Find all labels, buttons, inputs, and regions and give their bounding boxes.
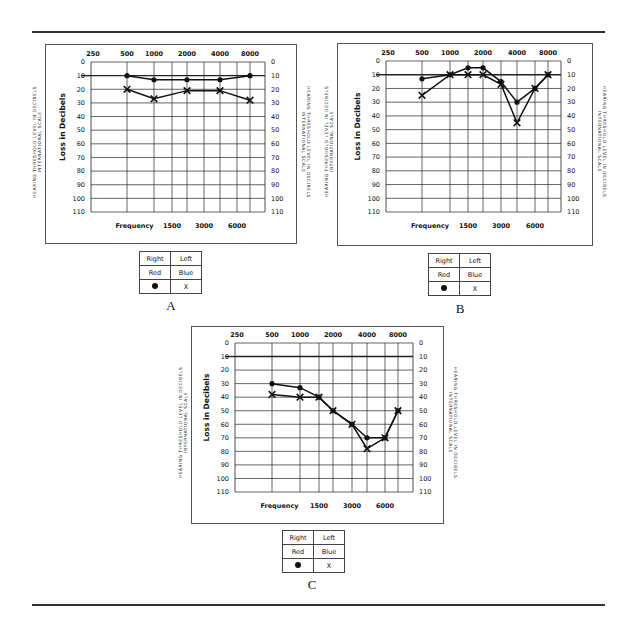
db-tick-right: 100 (419, 475, 431, 483)
db-tick-left: 100 (368, 195, 380, 203)
right-ear-dot-marker (419, 76, 424, 81)
db-tick-right: 110 (419, 488, 431, 496)
db-tick-right: 70 (419, 434, 427, 442)
db-tick-left: 60 (372, 140, 380, 148)
audiogram-b: 0010102020303040405050606070708080909010… (324, 49, 607, 230)
legend-left-color: Blue (460, 268, 491, 282)
db-tick-right: 40 (271, 113, 279, 121)
db-tick-right: 20 (271, 86, 279, 94)
right-ear-dot-marker (364, 435, 369, 440)
freq-label-bottom: 6000 (228, 222, 247, 230)
db-tick-right: 100 (271, 195, 283, 203)
db-tick-left: 110 (368, 208, 380, 216)
freq-label-bottom: 1500 (459, 222, 478, 230)
left-ear-line (127, 89, 250, 100)
legend-right: Right (140, 252, 171, 266)
right-ear-dot-marker (184, 77, 189, 82)
db-tick-left: 70 (221, 434, 229, 442)
frequency-axis-label: Frequency (260, 502, 299, 510)
legend-dot-icon (283, 559, 314, 573)
legend-x-icon: X (171, 280, 202, 294)
db-tick-right: 80 (271, 167, 279, 175)
international-scale-label-left: INTERNATIONAL SCALE (183, 392, 188, 453)
db-tick-left: 30 (372, 98, 380, 106)
db-tick-right: 0 (567, 57, 571, 65)
db-tick-left: 0 (81, 58, 85, 66)
right-ear-dot-marker (514, 100, 519, 105)
db-tick-right: 110 (567, 208, 579, 216)
international-scale-label-right: INTERNATIONAL SCALE (301, 112, 306, 173)
db-tick-left: 80 (77, 167, 85, 175)
db-tick-left: 50 (221, 407, 229, 415)
db-tick-right: 50 (271, 126, 279, 134)
right-ear-dot-marker (269, 381, 274, 386)
frequency-axis-label: Frequency (411, 222, 450, 230)
freq-label-top: 500 (415, 49, 429, 57)
db-tick-right: 0 (419, 339, 423, 347)
legend-left: Left (171, 252, 202, 266)
db-tick-right: 50 (419, 407, 427, 415)
legend-dot-icon (140, 280, 171, 294)
frequency-axis-label: Frequency (115, 222, 154, 230)
db-tick-left: 60 (77, 140, 85, 148)
freq-label-top: 4000 (211, 50, 230, 58)
db-tick-left: 110 (217, 488, 229, 496)
legend-x-icon: X (314, 559, 345, 573)
right-ear-dot-marker (247, 73, 252, 78)
legend-right-color: Red (283, 545, 314, 559)
db-tick-left: 50 (372, 126, 380, 134)
freq-label-top: 250 (381, 49, 395, 57)
db-tick-right: 30 (419, 380, 427, 388)
db-tick-left: 70 (77, 154, 85, 162)
db-tick-left: 80 (372, 167, 380, 175)
freq-label-top: 4000 (358, 331, 377, 339)
db-tick-right: 0 (271, 58, 275, 66)
freq-label-top: 8000 (389, 331, 408, 339)
legend-right-color: Red (140, 266, 171, 280)
db-tick-left: 80 (221, 448, 229, 456)
db-tick-right: 90 (271, 181, 279, 189)
freq-label-top: 500 (265, 331, 279, 339)
freq-label-bottom: 3000 (195, 222, 214, 230)
db-tick-right: 10 (419, 353, 427, 361)
db-tick-right: 80 (419, 448, 427, 456)
freq-label-top: 1000 (145, 50, 164, 58)
db-tick-right: 40 (419, 393, 427, 401)
db-tick-left: 10 (77, 72, 85, 80)
loss-in-decibels-label: Loss in Decibels (58, 93, 67, 161)
db-tick-left: 40 (77, 113, 85, 121)
db-tick-left: 0 (376, 57, 380, 65)
db-tick-right: 40 (567, 112, 575, 120)
db-tick-right: 70 (567, 153, 575, 161)
db-tick-left: 90 (221, 461, 229, 469)
db-tick-left: 50 (77, 126, 85, 134)
freq-label-top: 2000 (324, 331, 343, 339)
db-tick-right: 60 (567, 140, 575, 148)
legend-table-b: RightLeft RedBlue X (428, 253, 491, 296)
legend-right-color: Red (429, 268, 460, 282)
db-tick-right: 100 (567, 195, 579, 203)
db-tick-right: 110 (271, 208, 283, 216)
db-tick-right: 80 (567, 167, 575, 175)
db-tick-left: 40 (221, 393, 229, 401)
freq-label-top: 2000 (474, 49, 493, 57)
db-tick-left: 40 (372, 112, 380, 120)
legend-table-a: RightLeft RedBlue X (139, 251, 202, 294)
db-tick-left: 20 (77, 86, 85, 94)
freq-label-top: 250 (86, 50, 100, 58)
right-ear-dot-marker (217, 77, 222, 82)
db-tick-right: 60 (419, 421, 427, 429)
db-tick-left: 10 (221, 353, 229, 361)
legend-right: Right (429, 254, 460, 268)
legend-right: Right (283, 531, 314, 545)
db-tick-right: 60 (271, 140, 279, 148)
international-scale-label-right: INTERNATIONAL SCALE (448, 392, 453, 453)
legend-left-color: Blue (314, 545, 345, 559)
db-tick-right: 70 (271, 154, 279, 162)
loss-in-decibels-label: Loss in Decibels (353, 92, 362, 160)
legend-left: Left (314, 531, 345, 545)
db-tick-left: 90 (372, 181, 380, 189)
db-tick-right: 90 (567, 181, 575, 189)
freq-label-top: 1000 (441, 49, 460, 57)
panel-label-a: A (161, 298, 181, 314)
